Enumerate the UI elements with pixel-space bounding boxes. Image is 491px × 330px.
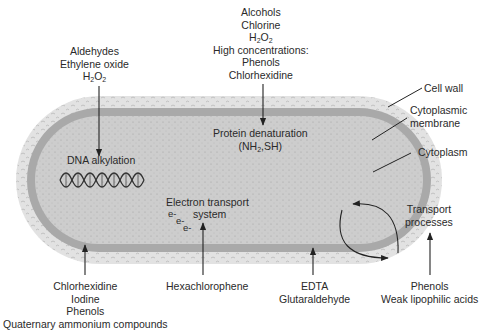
agent-h2o2-2: H2O2: [213, 31, 309, 44]
transport-line2: processes: [405, 216, 453, 229]
membrane-agents-label: Chlorhexidine Iodine Phenols Quaternary …: [3, 280, 168, 330]
membrane-label-line1: Cytoplasmic: [410, 104, 467, 117]
transport-line1: Transport: [405, 203, 453, 216]
electron-transport-system-label: system: [193, 208, 226, 221]
transport-agents-label: Phenols Weak lipophilic acids: [381, 280, 478, 305]
agent-edta: EDTA: [279, 280, 350, 293]
agent-h2o2: H2O2: [60, 70, 129, 83]
hexachlorophene-label: Hexachlorophene: [166, 280, 248, 293]
agent-ethylene-oxide: Ethylene oxide: [60, 58, 129, 71]
agent-phenols-2: Phenols: [3, 305, 168, 318]
cell-wall-label: Cell wall: [424, 82, 463, 95]
agent-iodine: Iodine: [3, 293, 168, 306]
protein-denaturation-label: Protein denaturation (NH2,SH): [213, 127, 308, 152]
agent-quaternary-ammonium: Quaternary ammonium compounds: [3, 318, 168, 330]
membrane-label-line2: membrane: [410, 117, 467, 130]
protein-denaturation-text: Protein denaturation: [213, 127, 308, 140]
agent-chlorhexidine-2: Chlorhexidine: [3, 280, 168, 293]
transport-processes-label: Transport processes: [405, 203, 453, 228]
protein-groups-text: (NH2,SH): [213, 140, 308, 153]
wall-agents-label: EDTA Glutaraldehyde: [279, 280, 350, 305]
protein-agents-label: Alcohols Chlorine H2O2 High concentratio…: [213, 6, 309, 81]
electron-3: e-: [183, 222, 191, 235]
agent-alcohols: Alcohols: [213, 6, 309, 19]
aldehydes-agents-label: Aldehydes Ethylene oxide H2O2: [60, 45, 129, 83]
agent-glutaraldehyde: Glutaraldehyde: [279, 293, 350, 306]
agent-high-concentrations: High concentrations:: [213, 44, 309, 57]
agent-weak-lipophilic-acids: Weak lipophilic acids: [381, 293, 478, 306]
agent-aldehydes: Aldehydes: [60, 45, 129, 58]
dna-alkylation-label: DNA alkylation: [67, 154, 135, 167]
agent-chlorine: Chlorine: [213, 19, 309, 32]
agent-phenols: Phenols: [213, 56, 309, 69]
cytoplasm-label: Cytoplasm: [418, 146, 468, 159]
cytoplasmic-membrane-label: Cytoplasmic membrane: [410, 104, 467, 129]
electron-transport-label: Electron transport: [166, 196, 249, 209]
agent-chlorhexidine: Chlorhexidine: [213, 69, 309, 82]
agent-phenols-3: Phenols: [381, 280, 478, 293]
